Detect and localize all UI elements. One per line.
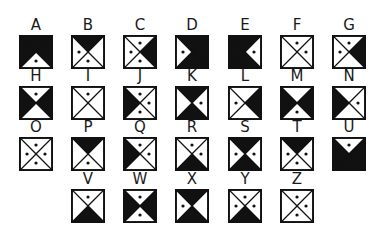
dot-icon	[234, 204, 237, 207]
dot-icon	[86, 92, 89, 95]
glyph-letter-label: G	[330, 18, 368, 33]
dot-icon	[304, 50, 307, 53]
dot-icon	[43, 152, 46, 155]
glyph-square-icon	[332, 137, 366, 171]
dot-icon	[295, 195, 298, 198]
glyph-square-icon	[19, 86, 53, 120]
cipher-glyph-a: A	[17, 18, 55, 74]
dot-icon	[286, 152, 289, 155]
cipher-glyph-t: T	[278, 120, 316, 176]
glyph-letter-label: I	[69, 69, 107, 84]
dot-icon	[252, 50, 255, 53]
glyph-square-icon	[332, 35, 366, 69]
glyph-square-icon	[71, 35, 105, 69]
dot-icon	[86, 195, 89, 198]
glyph-square-icon	[280, 137, 314, 171]
dot-icon	[199, 101, 202, 104]
dot-icon	[86, 59, 89, 62]
dot-icon	[304, 204, 307, 207]
dot-icon	[356, 101, 359, 104]
glyph-letter-label: M	[278, 69, 316, 84]
cipher-glyph-g: G	[330, 18, 368, 74]
cipher-glyph-h: H	[17, 69, 55, 125]
dot-icon	[34, 161, 37, 164]
glyph-letter-label: S	[226, 120, 264, 135]
dot-icon	[295, 213, 298, 216]
glyph-letter-label: C	[121, 18, 159, 33]
cipher-glyph-x: X	[173, 172, 211, 228]
dot-icon	[138, 143, 141, 146]
cipher-alphabet-grid: ABCDEFGHIJKLMNOPQRSTUVWXYZ	[0, 0, 390, 249]
glyph-letter-label: Q	[121, 120, 159, 135]
glyph-letter-label: L	[226, 69, 264, 84]
glyph-letter-label: J	[121, 69, 159, 84]
glyph-letter-label: U	[330, 120, 368, 135]
cipher-glyph-q: Q	[121, 120, 159, 176]
glyph-letter-label: D	[173, 18, 211, 33]
dot-icon	[138, 110, 141, 113]
dot-icon	[138, 92, 141, 95]
dot-icon	[295, 110, 298, 113]
glyph-square-icon	[228, 137, 262, 171]
cipher-glyph-j: J	[121, 69, 159, 125]
dot-icon	[347, 143, 350, 146]
glyph-square-icon	[280, 86, 314, 120]
glyph-letter-label: T	[278, 120, 316, 135]
glyph-letter-label: W	[121, 172, 159, 187]
dot-icon	[25, 152, 28, 155]
glyph-square-icon	[123, 35, 157, 69]
dot-icon	[243, 195, 246, 198]
cipher-glyph-u: U	[330, 120, 368, 176]
glyph-square-icon	[71, 189, 105, 223]
glyph-square-icon	[19, 35, 53, 69]
dot-icon	[181, 204, 184, 207]
glyph-square-icon	[71, 137, 105, 171]
cipher-glyph-p: P	[69, 120, 107, 176]
glyph-letter-label: N	[330, 69, 368, 84]
glyph-letter-label: V	[69, 172, 107, 187]
glyph-square-icon	[228, 35, 262, 69]
cipher-glyph-e: E	[226, 18, 264, 74]
cipher-glyph-l: L	[226, 69, 264, 125]
glyph-letter-label: O	[17, 120, 55, 135]
glyph-square-icon	[175, 137, 209, 171]
cipher-glyph-r: R	[173, 120, 211, 176]
glyph-letter-label: R	[173, 120, 211, 135]
dot-icon	[338, 50, 341, 53]
glyph-square-icon	[19, 137, 53, 171]
dot-icon	[347, 41, 350, 44]
dot-icon	[252, 152, 255, 155]
dot-icon	[234, 101, 237, 104]
cipher-glyph-v: V	[69, 172, 107, 228]
dot-icon	[304, 152, 307, 155]
glyph-square-icon	[280, 189, 314, 223]
dot-icon	[129, 50, 132, 53]
dot-icon	[147, 101, 150, 104]
dot-icon	[295, 161, 298, 164]
glyph-square-icon	[175, 35, 209, 69]
dot-icon	[86, 161, 89, 164]
dot-icon	[252, 204, 255, 207]
cipher-glyph-z: Z	[278, 172, 316, 228]
glyph-letter-label: B	[69, 18, 107, 33]
glyph-square-icon	[228, 86, 262, 120]
cipher-glyph-n: N	[330, 69, 368, 125]
dot-icon	[138, 213, 141, 216]
dot-icon	[34, 143, 37, 146]
dot-icon	[190, 143, 193, 146]
glyph-square-icon	[332, 86, 366, 120]
glyph-square-icon	[123, 189, 157, 223]
glyph-letter-label: E	[226, 18, 264, 33]
dot-icon	[138, 59, 141, 62]
glyph-letter-label: A	[17, 18, 55, 33]
dot-icon	[199, 152, 202, 155]
glyph-letter-label: H	[17, 69, 55, 84]
cipher-glyph-s: S	[226, 120, 264, 176]
dot-icon	[77, 50, 80, 53]
cipher-glyph-y: Y	[226, 172, 264, 228]
glyph-square-icon	[175, 189, 209, 223]
cipher-glyph-w: W	[121, 172, 159, 228]
glyph-square-icon	[280, 35, 314, 69]
cipher-glyph-c: C	[121, 18, 159, 74]
glyph-letter-label: K	[173, 69, 211, 84]
